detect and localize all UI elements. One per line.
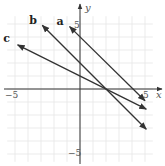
y-max-tick: 5 xyxy=(74,20,80,30)
x-axis-label: x xyxy=(156,89,162,100)
line-b xyxy=(42,25,146,129)
x-min-tick: −5 xyxy=(5,90,19,100)
line-label-b: b xyxy=(29,14,37,27)
line-label-c: c xyxy=(3,32,10,45)
x-max-tick: 5 xyxy=(143,90,149,100)
y-axis-label: y xyxy=(84,2,91,13)
line-c xyxy=(18,45,147,109)
coordinate-plane: x y −5 5 5 −5 abc xyxy=(0,0,165,166)
line-label-a: a xyxy=(57,15,64,28)
y-min-tick: −5 xyxy=(68,148,82,158)
series-group: abc xyxy=(3,14,146,129)
